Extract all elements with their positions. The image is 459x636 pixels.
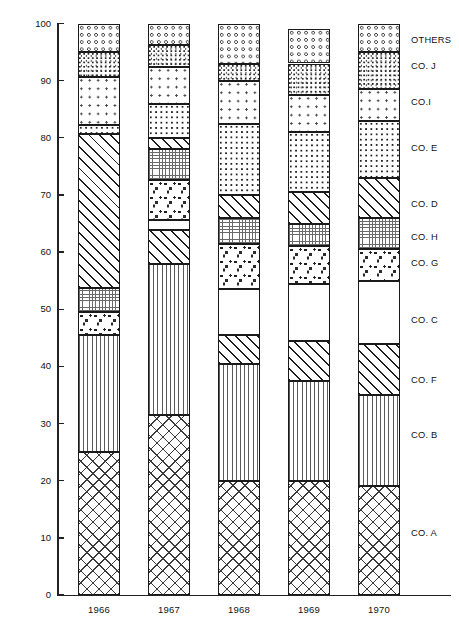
legend-item-cog[interactable]: CO. G <box>411 258 439 268</box>
y-axis-tick <box>57 194 64 195</box>
bar-1968[interactable] <box>218 24 260 596</box>
bar-segment-cog[interactable] <box>148 180 190 220</box>
legend-item-coa[interactable]: CO. A <box>411 528 437 538</box>
bar-segment-cog[interactable] <box>358 249 400 280</box>
y-axis-tick <box>57 80 64 81</box>
bar-segment-coi[interactable] <box>358 89 400 120</box>
bar-segment-coh[interactable] <box>78 288 120 312</box>
bar-segment-cog[interactable] <box>288 246 330 283</box>
bar-segment-coa[interactable] <box>148 415 190 595</box>
bar-segment-coi[interactable] <box>288 95 330 132</box>
x-axis-label-1968: 1968 <box>209 604 269 615</box>
bar-segment-coi[interactable] <box>148 67 190 104</box>
bar-segment-cod[interactable] <box>218 195 260 218</box>
bar-segment-coj[interactable] <box>148 45 190 67</box>
bar-segment-cob[interactable] <box>218 364 260 481</box>
bar-segment-coc[interactable] <box>148 220 190 230</box>
legend-item-cob[interactable]: CO. B <box>411 430 438 440</box>
bar-segment-coh[interactable] <box>148 149 190 180</box>
bar-segment-coc[interactable] <box>358 281 400 344</box>
y-axis-tick <box>57 309 64 310</box>
bar-1970[interactable] <box>358 24 400 596</box>
legend-item-coc[interactable]: CO. C <box>411 315 438 325</box>
y-axis-tick-label: 0 <box>17 589 51 600</box>
bar-segment-others[interactable] <box>358 24 400 53</box>
legend-item-cof[interactable]: CO. F <box>411 375 437 385</box>
y-axis-tick-label: 20 <box>17 475 51 486</box>
bar-segment-cod[interactable] <box>148 138 190 148</box>
y-axis-tick-label: 80 <box>17 132 51 143</box>
y-axis-tick-label: 40 <box>17 360 51 371</box>
y-axis-tick <box>57 366 64 367</box>
y-axis-tick-label: 90 <box>17 75 51 86</box>
bar-segment-coh[interactable] <box>358 218 400 249</box>
y-axis-tick <box>57 251 64 252</box>
bar-segment-cod[interactable] <box>358 178 400 218</box>
legend-item-others[interactable]: OTHERS <box>411 35 451 45</box>
bar-1969[interactable] <box>288 24 330 596</box>
bar-segment-coi[interactable] <box>78 77 120 126</box>
bar-segment-coe[interactable] <box>358 121 400 178</box>
x-axis-label-1969: 1969 <box>279 604 339 615</box>
bar-segment-coj[interactable] <box>358 52 400 89</box>
bar-1967[interactable] <box>148 24 190 596</box>
bar-segment-cob[interactable] <box>288 381 330 481</box>
bar-segment-coa[interactable] <box>218 481 260 595</box>
bar-segment-cob[interactable] <box>358 395 400 486</box>
bar-segment-cob[interactable] <box>78 335 120 452</box>
bar-segment-others[interactable] <box>148 24 190 46</box>
y-axis-tick <box>57 480 64 481</box>
y-axis-tick-label: 60 <box>17 246 51 257</box>
bar-segment-others[interactable] <box>288 29 330 63</box>
bar-segment-coe[interactable] <box>148 104 190 138</box>
legend-item-coj[interactable]: CO. J <box>411 61 436 71</box>
y-axis-tick <box>57 594 64 595</box>
y-axis-tick <box>57 137 64 138</box>
legend-item-coi[interactable]: CO.I <box>411 97 431 107</box>
bar-segment-cof[interactable] <box>148 230 190 263</box>
bar-segment-coj[interactable] <box>78 52 120 77</box>
legend-item-coh[interactable]: CO. H <box>411 232 438 242</box>
bar-segment-coh[interactable] <box>288 224 330 247</box>
x-axis-label-1967: 1967 <box>139 604 199 615</box>
bar-segment-cob[interactable] <box>148 264 190 415</box>
bar-segment-coa[interactable] <box>358 486 400 595</box>
legend-item-coe[interactable]: CO. E <box>411 143 438 153</box>
y-axis-tick <box>57 537 64 538</box>
bar-segment-cof[interactable] <box>358 344 400 395</box>
bar-segment-others[interactable] <box>218 24 260 64</box>
y-axis-tick-label: 10 <box>17 532 51 543</box>
bar-segment-cod[interactable] <box>78 134 120 288</box>
bar-segment-coe[interactable] <box>218 124 260 195</box>
bar-segment-others[interactable] <box>78 24 120 53</box>
bar-segment-coe[interactable] <box>78 125 120 134</box>
bar-segment-cof[interactable] <box>288 341 330 381</box>
bar-segment-cog[interactable] <box>218 244 260 290</box>
bar-segment-coj[interactable] <box>288 64 330 95</box>
bar-segment-coa[interactable] <box>288 481 330 595</box>
bar-segment-coc[interactable] <box>218 289 260 335</box>
y-axis-tick-label: 30 <box>17 418 51 429</box>
y-axis-tick-label: 100 <box>17 18 51 29</box>
y-axis-tick-label: 50 <box>17 303 51 314</box>
y-axis-tick <box>57 23 64 24</box>
y-axis-tick-label: 70 <box>17 189 51 200</box>
bar-segment-coj[interactable] <box>218 64 260 81</box>
x-axis-label-1970: 1970 <box>349 604 409 615</box>
bar-segment-coh[interactable] <box>218 218 260 244</box>
bar-segment-coe[interactable] <box>288 132 330 192</box>
bar-segment-cod[interactable] <box>288 192 330 223</box>
bar-segment-coa[interactable] <box>78 452 120 595</box>
bar-segment-cog[interactable] <box>78 312 120 335</box>
y-axis-tick <box>57 423 64 424</box>
x-axis-label-1966: 1966 <box>69 604 129 615</box>
bar-segment-coc[interactable] <box>288 284 330 341</box>
bar-1966[interactable] <box>78 24 120 596</box>
bar-segment-cof[interactable] <box>218 335 260 364</box>
legend-item-cod[interactable]: CO. D <box>411 199 438 209</box>
stacked-bar-chart: 1009080706050403020100 19661967196819691… <box>0 0 459 636</box>
bar-segment-coi[interactable] <box>218 81 260 124</box>
